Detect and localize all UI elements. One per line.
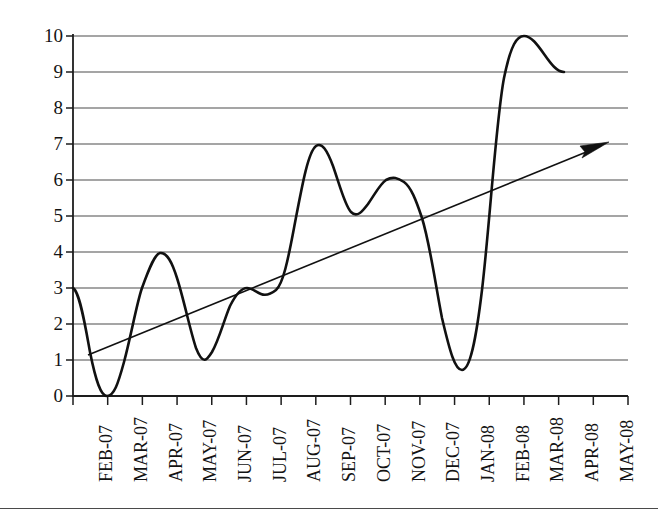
y-tick-label-2: 2 (21, 314, 63, 333)
page-divider-rule (0, 508, 658, 509)
x-tick-label-apr-08: APR-08 (583, 423, 601, 482)
y-tick-label-4: 4 (21, 242, 63, 261)
x-tick-label-may-08: MAY-08 (618, 420, 636, 482)
y-tick-label-10: 10 (21, 26, 63, 45)
x-tick-label-feb-07: FEB-07 (97, 425, 115, 482)
y-tick-label-7: 7 (21, 134, 63, 153)
y-tick-label-1: 1 (21, 350, 63, 369)
y-tick-label-8: 8 (21, 98, 63, 117)
y-tick-label-3: 3 (21, 278, 63, 297)
x-tick-label-jan-08: JAN-08 (479, 425, 497, 482)
x-tick-label-jun-07: JUN-07 (236, 425, 254, 482)
y-tick-label-0: 0 (21, 386, 63, 405)
chart-figure: 012345678910 FEB-07MAR-07APR-07MAY-07JUN… (0, 0, 658, 519)
x-tick-label-feb-08: FEB-08 (514, 425, 532, 482)
x-tick-label-mar-07: MAR-07 (132, 417, 150, 482)
x-tick-label-may-07: MAY-07 (201, 420, 219, 482)
x-tick-label-aug-07: AUG-07 (305, 419, 323, 482)
x-tick-marks (73, 396, 628, 405)
x-tick-label-sep-07: SEP-07 (340, 427, 358, 482)
x-tick-label-oct-07: OCT-07 (375, 424, 393, 482)
y-tick-label-9: 9 (21, 62, 63, 81)
y-tick-marks (66, 36, 73, 396)
y-tick-label-6: 6 (21, 170, 63, 189)
x-tick-label-jul-07: JUL-07 (271, 427, 289, 482)
x-tick-label-apr-07: APR-07 (167, 423, 185, 482)
x-tick-label-dec-07: DEC-07 (444, 422, 462, 482)
y-tick-label-5: 5 (21, 206, 63, 225)
x-tick-label-nov-07: NOV-07 (410, 421, 428, 482)
x-tick-label-mar-08: MAR-08 (548, 417, 566, 482)
gridlines (73, 36, 628, 360)
trend-line-group (88, 142, 609, 355)
